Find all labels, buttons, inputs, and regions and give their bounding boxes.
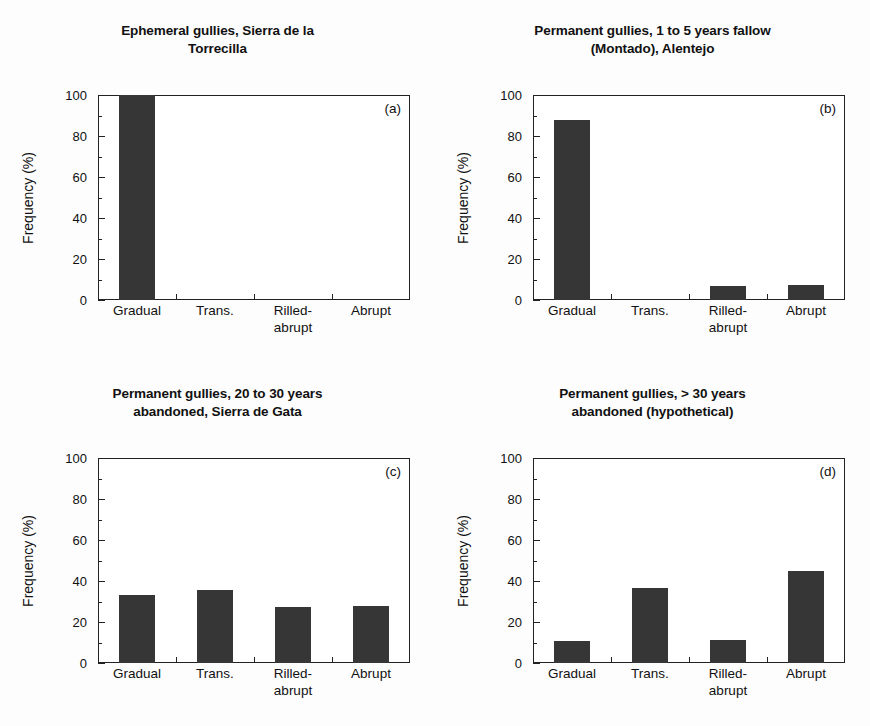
panel-c-title: Permanent gullies, 20 to 30 years abando… (18, 385, 417, 421)
panel-a: Ephemeral gullies, Sierra de la Torrecil… (0, 0, 435, 363)
panel-b-bars (533, 95, 845, 300)
panel-d-title: Permanent gullies, > 30 years abandoned … (453, 385, 852, 421)
bar-slot (254, 458, 332, 663)
y-tick-label: 0 (515, 293, 522, 308)
y-tick-label: 20 (73, 252, 87, 267)
x-axis-label-2: Rilled-abrupt (689, 666, 767, 700)
bar-gradual (119, 595, 155, 663)
x-axis-label-0: Gradual (533, 303, 611, 337)
bar-slot (767, 458, 845, 663)
x-axis-label-2: Rilled-abrupt (689, 303, 767, 337)
panel-a-title: Ephemeral gullies, Sierra de la Torrecil… (18, 22, 417, 58)
y-tick-label: 0 (515, 656, 522, 671)
bar-slot (98, 95, 176, 300)
x-tick-mark (767, 657, 768, 663)
x-tick-mark (176, 657, 177, 663)
panel-b-plot-area: 020406080100 (b) (533, 95, 845, 300)
x-tick-mark (767, 294, 768, 300)
panel-a-title-line2: Torrecilla (18, 40, 417, 58)
panel-c-y-axis-title: Frequency (%) (18, 458, 38, 663)
panel-c-bars (98, 458, 410, 663)
x-axis-label-1: Trans. (176, 303, 254, 337)
panel-c-title-line1: Permanent gullies, 20 to 30 years (18, 385, 417, 403)
x-axis-label-1: Trans. (611, 666, 689, 700)
x-tick-mark (611, 657, 612, 663)
bar-abrupt (788, 571, 824, 663)
bar-slot (689, 95, 767, 300)
y-tick-label: 60 (73, 533, 87, 548)
y-tick-mark (98, 663, 105, 664)
bar-slot (611, 95, 689, 300)
panel-b-y-axis-title: Frequency (%) (453, 95, 473, 300)
y-tick-label: 40 (508, 211, 522, 226)
x-axis-label-3: Abrupt (767, 303, 845, 337)
bar-slot (533, 95, 611, 300)
bar-trans- (632, 588, 668, 663)
panel-b-title-line1: Permanent gullies, 1 to 5 years fallow (453, 22, 852, 40)
y-tick-label: 40 (508, 574, 522, 589)
panel-d-plot-area: 020406080100 (d) (533, 458, 845, 663)
y-tick-label: 40 (73, 574, 87, 589)
x-axis-label-2-line2: abrupt (689, 683, 767, 700)
panel-a-plot-area: 020406080100 (a) (98, 95, 410, 300)
panel-d-title-line1: Permanent gullies, > 30 years (453, 385, 852, 403)
bar-gradual (554, 120, 590, 300)
panel-b: Permanent gullies, 1 to 5 years fallow (… (435, 0, 870, 363)
bar-slot (176, 95, 254, 300)
bar-gradual (554, 641, 590, 663)
panel-d-x-labels: GradualTrans.Rilled-abruptAbrupt (533, 666, 845, 700)
x-tick-mark (689, 657, 690, 663)
y-tick-label: 40 (73, 211, 87, 226)
bar-trans- (197, 590, 233, 663)
bar-slot (767, 95, 845, 300)
bar-rilled-abrupt (275, 607, 311, 663)
bar-rilled-abrupt (710, 640, 746, 663)
bar-slot (332, 458, 410, 663)
panel-b-title: Permanent gullies, 1 to 5 years fallow (… (453, 22, 852, 58)
panel-c-x-labels: GradualTrans.Rilled-abruptAbrupt (98, 666, 410, 700)
panel-b-x-labels: GradualTrans.Rilled-abruptAbrupt (533, 303, 845, 337)
x-axis-label-2-line2: abrupt (254, 320, 332, 337)
bar-abrupt (788, 285, 824, 300)
x-axis-label-0: Gradual (98, 303, 176, 337)
y-tick-label: 20 (508, 615, 522, 630)
y-tick-label: 0 (80, 293, 87, 308)
bar-abrupt (353, 606, 389, 663)
y-tick-label: 60 (508, 533, 522, 548)
x-axis-label-3: Abrupt (767, 666, 845, 700)
panel-a-title-line1: Ephemeral gullies, Sierra de la (18, 22, 417, 40)
y-tick-label: 20 (508, 252, 522, 267)
bar-rilled-abrupt (710, 286, 746, 300)
bar-slot (176, 458, 254, 663)
panel-a-x-labels: GradualTrans.Rilled-abruptAbrupt (98, 303, 410, 337)
x-axis-label-2: Rilled-abrupt (254, 303, 332, 337)
panel-b-title-line2: (Montado), Alentejo (453, 40, 852, 58)
y-tick-label: 80 (73, 492, 87, 507)
bar-chart-figure: Ephemeral gullies, Sierra de la Torrecil… (0, 0, 870, 726)
panel-a-bars (98, 95, 410, 300)
bar-slot (254, 95, 332, 300)
panel-a-letter: (a) (385, 101, 402, 116)
x-axis-label-1: Trans. (176, 666, 254, 700)
y-tick-mark (533, 300, 540, 301)
x-axis-label-2: Rilled-abrupt (254, 666, 332, 700)
x-tick-mark (332, 294, 333, 300)
y-tick-label: 100 (65, 88, 87, 103)
panel-c-letter: (c) (385, 464, 401, 479)
panel-c-title-line2: abandoned, Sierra de Gata (18, 403, 417, 421)
y-tick-label: 80 (73, 129, 87, 144)
panel-d: Permanent gullies, > 30 years abandoned … (435, 363, 870, 726)
x-tick-mark (611, 294, 612, 300)
y-tick-label: 20 (73, 615, 87, 630)
panel-c: Permanent gullies, 20 to 30 years abando… (0, 363, 435, 726)
y-tick-mark (98, 300, 105, 301)
x-axis-label-2-line2: abrupt (689, 320, 767, 337)
y-tick-label: 60 (508, 170, 522, 185)
x-tick-mark (332, 657, 333, 663)
x-tick-mark (254, 657, 255, 663)
x-tick-mark (254, 294, 255, 300)
panel-b-letter: (b) (820, 101, 837, 116)
x-tick-mark (176, 294, 177, 300)
bar-slot (611, 458, 689, 663)
panel-d-y-axis-title: Frequency (%) (453, 458, 473, 663)
